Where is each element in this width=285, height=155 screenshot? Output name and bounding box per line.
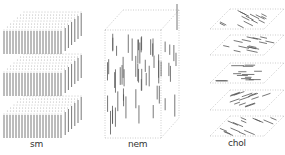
phase-diagram <box>0 0 285 155</box>
cholesteric-label: chol <box>228 138 246 148</box>
smectic-panel <box>4 12 82 138</box>
cholesteric-panel <box>210 9 284 136</box>
nematic-label: nem <box>128 139 147 149</box>
smectic-label: sm <box>30 139 43 149</box>
nematic-panel <box>105 4 179 138</box>
